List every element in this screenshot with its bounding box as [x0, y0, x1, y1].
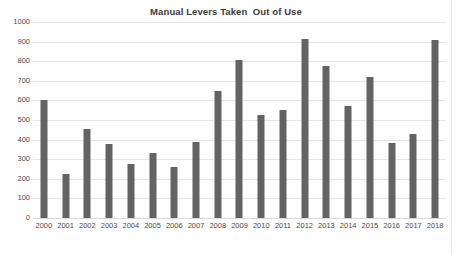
bar [366, 77, 373, 218]
x-tick-label: 2009 [231, 222, 248, 230]
y-tick-label: 100 [17, 195, 30, 203]
bar-series [33, 22, 446, 218]
canvas-right-border [451, 0, 452, 255]
bar [323, 66, 330, 218]
bar-slot [142, 22, 164, 218]
bar [388, 143, 395, 218]
bar [236, 60, 243, 218]
x-tick-label: 2013 [318, 222, 335, 230]
bar-slot [359, 22, 381, 218]
bar-slot [163, 22, 185, 218]
bar [171, 167, 178, 218]
y-tick-label: 500 [17, 116, 30, 124]
x-tick-label: 2006 [166, 222, 183, 230]
bar-slot [294, 22, 316, 218]
bar-slot [185, 22, 207, 218]
bar-slot [424, 22, 446, 218]
bar-slot [337, 22, 359, 218]
x-tick-label: 2012 [296, 222, 313, 230]
x-tick-label: 2008 [209, 222, 226, 230]
y-tick-label: 1000 [13, 18, 30, 26]
x-tick-label: 2015 [362, 222, 379, 230]
bar-slot [250, 22, 272, 218]
bar-slot [120, 22, 142, 218]
bar [106, 144, 113, 218]
x-tick-label: 2017 [405, 222, 422, 230]
chart-title: Manual Levers Taken Out of Use [0, 6, 452, 17]
y-tick-label: 400 [17, 136, 30, 144]
y-tick-label: 900 [17, 38, 30, 46]
x-tick-label: 2004 [122, 222, 139, 230]
bar-slot [55, 22, 77, 218]
x-tick-label: 2018 [427, 222, 444, 230]
bar [193, 142, 200, 218]
bar [432, 40, 439, 218]
x-tick-label: 2001 [57, 222, 74, 230]
y-axis: 01002003004005006007008009001000 [0, 22, 30, 218]
bar [258, 115, 265, 218]
bar-slot [381, 22, 403, 218]
bar-slot [272, 22, 294, 218]
y-tick-label: 0 [26, 214, 30, 222]
bar [214, 91, 221, 218]
x-tick-label: 2002 [79, 222, 96, 230]
x-tick-label: 2016 [383, 222, 400, 230]
bar [301, 39, 308, 218]
y-tick-label: 700 [17, 77, 30, 85]
y-tick-label: 600 [17, 97, 30, 105]
bar [84, 129, 91, 218]
bar [345, 106, 352, 218]
bar [149, 153, 156, 218]
y-tick-label: 200 [17, 175, 30, 183]
bar [127, 164, 134, 218]
x-tick-label: 2010 [253, 222, 270, 230]
gridline [33, 218, 446, 219]
bar [62, 174, 69, 218]
bar [410, 134, 417, 218]
x-tick-label: 2011 [275, 222, 291, 230]
x-tick-label: 2003 [101, 222, 118, 230]
bar-slot [403, 22, 425, 218]
y-tick-label: 300 [17, 155, 30, 163]
y-tick-label: 800 [17, 57, 30, 65]
bar-slot [229, 22, 251, 218]
x-tick-label: 2007 [188, 222, 205, 230]
bar [279, 110, 286, 218]
bar [40, 100, 47, 218]
bar-slot [33, 22, 55, 218]
x-tick-label: 2005 [144, 222, 161, 230]
x-tick-label: 2000 [36, 222, 53, 230]
bar-slot [316, 22, 338, 218]
bar-chart-figure: Manual Levers Taken Out of Use 010020030… [0, 0, 462, 255]
bar-slot [98, 22, 120, 218]
bar-slot [207, 22, 229, 218]
x-axis: 2000200120022003200420052006200720082009… [33, 222, 446, 236]
bar-slot [76, 22, 98, 218]
x-tick-label: 2014 [340, 222, 357, 230]
